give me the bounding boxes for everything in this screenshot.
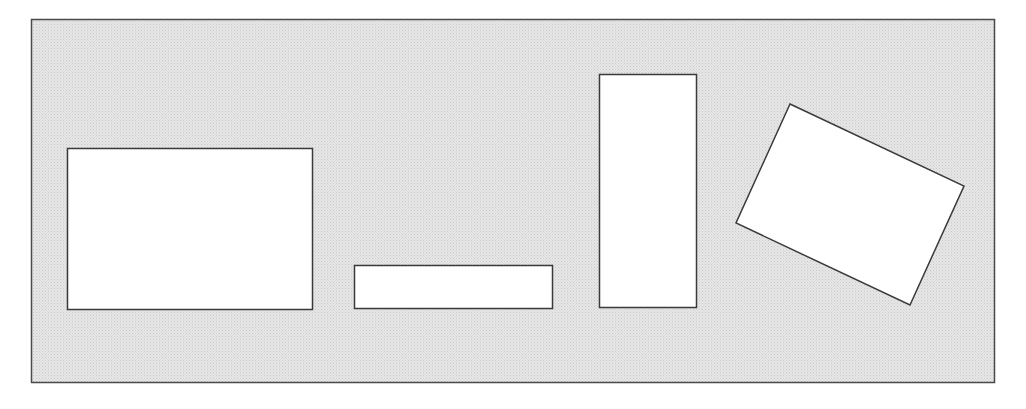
- wide-rectangle: [68, 149, 313, 310]
- thin-rectangle: [355, 266, 553, 309]
- tall-rectangle: [600, 75, 697, 308]
- diagram-canvas: [0, 0, 1026, 409]
